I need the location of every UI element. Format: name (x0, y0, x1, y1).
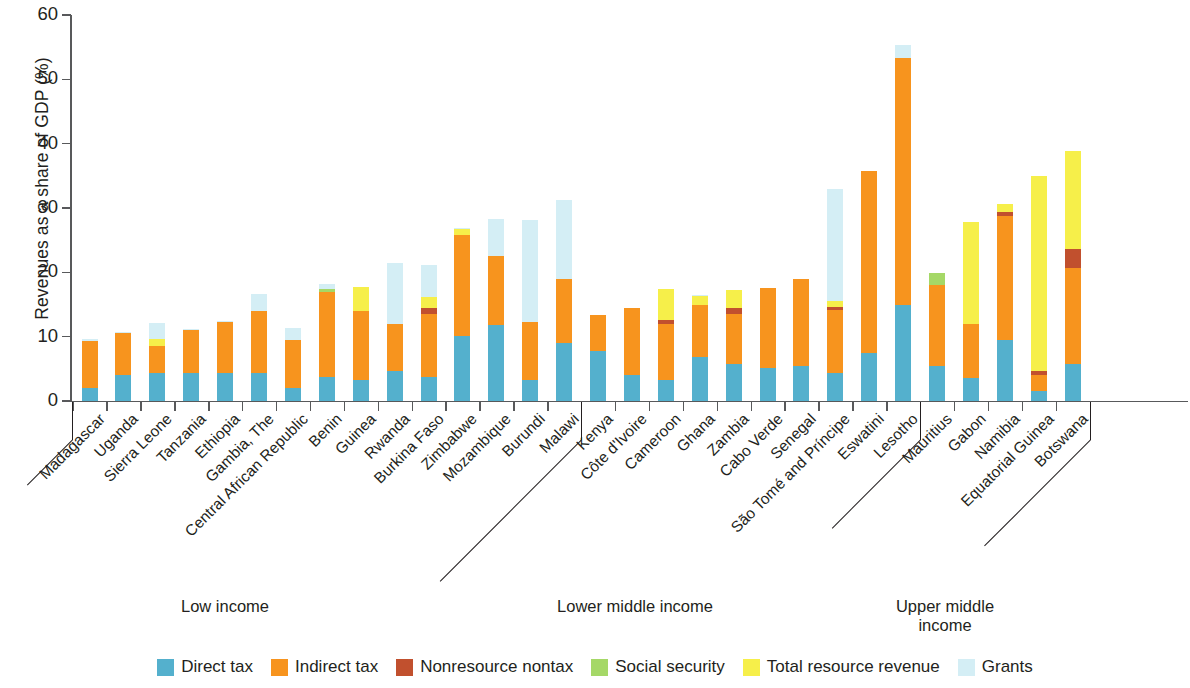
segment-grants (522, 220, 538, 322)
segment-indirect-tax (658, 324, 674, 381)
segment-indirect-tax (251, 311, 267, 373)
segment-grants (488, 219, 504, 256)
segment-indirect-tax (793, 279, 809, 366)
segment-total-resource-revenue (1031, 176, 1047, 372)
legend-label: Nonresource nontax (420, 657, 573, 677)
segment-total-resource-revenue (692, 296, 708, 306)
y-tick-label: 10 (0, 327, 58, 346)
segment-grants (421, 265, 437, 297)
segment-indirect-tax (861, 171, 877, 352)
segment-indirect-tax (82, 341, 98, 387)
y-tick-label: 60 (0, 5, 58, 24)
group-label-upper-middle-income: Upper middleincome (840, 597, 1050, 635)
bracket-stub-upper-middle (1090, 402, 1091, 440)
segment-total-resource-revenue (1065, 151, 1081, 249)
legend-swatch-icon (591, 659, 608, 676)
chart-legend: Direct taxIndirect taxNonresource nontax… (0, 657, 1190, 677)
segment-indirect-tax (556, 279, 572, 343)
segment-total-resource-revenue (658, 289, 674, 320)
bar-botswana (1065, 151, 1081, 401)
legend-item[interactable]: Social security (591, 657, 725, 677)
y-tick-label: 20 (0, 262, 58, 281)
plot-area (70, 15, 1188, 401)
legend-swatch-icon (271, 659, 288, 676)
bracket-start-stub (72, 402, 73, 440)
segment-indirect-tax (115, 333, 131, 375)
legend-item[interactable]: Grants (958, 657, 1033, 677)
segment-indirect-tax (183, 330, 199, 372)
segment-grants (556, 200, 572, 279)
y-tick-label: 30 (0, 198, 58, 217)
bar-eswatini (861, 171, 877, 401)
segment-grants (895, 45, 911, 58)
legend-item[interactable]: Nonresource nontax (396, 657, 573, 677)
segment-indirect-tax (590, 315, 606, 351)
legend-item[interactable]: Direct tax (157, 657, 253, 677)
bar-madagascar (82, 339, 98, 401)
legend-item[interactable]: Total resource revenue (743, 657, 940, 677)
bracket-stub-lower-middle (920, 402, 921, 440)
segment-indirect-tax (895, 58, 911, 305)
legend-swatch-icon (157, 659, 174, 676)
segment-indirect-tax (997, 216, 1013, 340)
segment-social-security (929, 273, 945, 285)
bar-gabon (963, 222, 979, 401)
segment-indirect-tax (1065, 268, 1081, 364)
bar-equatorial-guinea (1031, 176, 1047, 401)
group-label-low-income: Low income (100, 597, 350, 616)
segment-total-resource-revenue (353, 287, 369, 311)
segment-direct-tax (82, 388, 98, 402)
segment-nonresource-nontax (1065, 249, 1081, 268)
segment-indirect-tax (624, 308, 640, 376)
legend-label: Direct tax (181, 657, 253, 677)
legend-label: Indirect tax (295, 657, 378, 677)
legend-swatch-icon (743, 659, 760, 676)
group-label-lower-middle-income: Lower middle income (470, 597, 800, 616)
segment-grants (149, 323, 165, 339)
y-tick-label: 50 (0, 69, 58, 88)
legend-label: Social security (615, 657, 725, 677)
segment-indirect-tax (421, 314, 437, 378)
segment-grants (285, 328, 301, 340)
segment-indirect-tax (488, 256, 504, 325)
segment-indirect-tax (454, 235, 470, 336)
legend-swatch-icon (958, 659, 975, 676)
legend-label: Total resource revenue (767, 657, 940, 677)
segment-indirect-tax (760, 288, 776, 367)
legend-item[interactable]: Indirect tax (271, 657, 378, 677)
segment-indirect-tax (726, 314, 742, 364)
segment-total-resource-revenue (726, 290, 742, 309)
segment-grants (827, 189, 843, 301)
segment-grants (251, 294, 267, 311)
y-tick-label: 0 (0, 391, 58, 410)
bar-namibia (997, 204, 1013, 401)
y-axis-title: Revenues as a share of GDP (%) (32, 0, 53, 379)
segment-total-resource-revenue (997, 204, 1013, 212)
bracket-stub-low-income (581, 402, 582, 440)
y-tick-label: 40 (0, 134, 58, 153)
chart-figure: Revenues as a share of GDP (%) 010203040… (0, 0, 1190, 688)
legend-label: Grants (982, 657, 1033, 677)
segment-indirect-tax (963, 324, 979, 378)
legend-swatch-icon (396, 659, 413, 676)
